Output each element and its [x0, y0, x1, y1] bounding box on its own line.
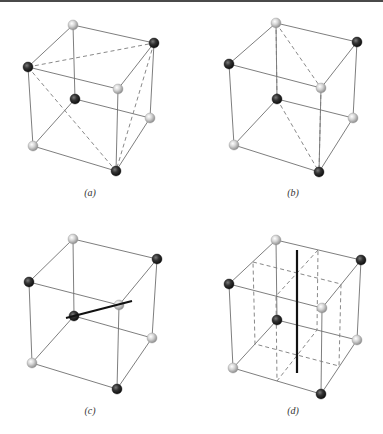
- cube-edge: [73, 25, 154, 43]
- dark-atom-bbl: [272, 94, 282, 104]
- cube-edge: [277, 99, 353, 118]
- cube-edge: [29, 239, 73, 282]
- cube-edge: [276, 240, 277, 320]
- cube-edge: [117, 305, 119, 389]
- light-atom-tfr: [316, 83, 326, 93]
- cube-edge: [119, 259, 157, 305]
- cube-panel-a: (a): [23, 20, 159, 199]
- dark-atom-bfr: [316, 389, 326, 399]
- dark-atom-bfr: [112, 384, 122, 394]
- cube-edge: [321, 308, 322, 394]
- light-atom-tfr: [113, 84, 123, 94]
- cube-panel-b: (b): [224, 18, 362, 199]
- light-atom-tbl: [68, 20, 78, 30]
- cube-edge: [32, 363, 117, 389]
- light-atom-bbr: [147, 333, 157, 343]
- dark-atom-bbl: [272, 315, 282, 325]
- panel-label-d: (d): [287, 405, 299, 417]
- dark-atom-bfr: [111, 166, 121, 176]
- light-atom-tbl: [271, 235, 281, 245]
- cube-edge: [73, 25, 75, 99]
- cube-edge: [229, 64, 321, 88]
- cube-edge: [357, 260, 361, 340]
- dark-atom-tbr: [352, 37, 362, 47]
- cube-edge: [229, 240, 276, 284]
- cube-edge: [32, 316, 74, 363]
- cube-edge: [229, 284, 322, 308]
- cube-edge: [150, 43, 154, 118]
- panel-label-c: (c): [84, 405, 96, 417]
- cube-edge: [116, 118, 150, 171]
- cube-edge: [322, 260, 361, 308]
- cube-panel-d: (d): [224, 235, 366, 417]
- dashed-symmetry-line: [28, 43, 154, 67]
- light-atom-bfl: [27, 358, 37, 368]
- cube-edge: [321, 42, 357, 88]
- cube-edge: [229, 64, 234, 145]
- cube-edge: [117, 338, 152, 389]
- cube-edge: [75, 99, 150, 118]
- dark-atom-tfl: [224, 279, 234, 289]
- light-atom-bfl: [229, 140, 239, 150]
- dark-atom-bfr: [314, 167, 324, 177]
- cube-edge: [229, 284, 233, 368]
- dark-atom-tbr: [149, 38, 159, 48]
- cube-edge: [353, 42, 357, 118]
- light-atom-bbr: [348, 113, 358, 123]
- cube-edge: [28, 25, 73, 67]
- cube-edge: [28, 67, 118, 89]
- cube-edge: [234, 99, 277, 145]
- dark-atom-tbr: [356, 255, 366, 265]
- dark-atom-tbr: [152, 254, 162, 264]
- cube-edge: [73, 239, 74, 316]
- cube-symmetry-figure: (a)(b)(c)(d): [0, 0, 383, 434]
- cube-edge: [33, 146, 116, 171]
- light-atom-bfl: [28, 141, 38, 151]
- dashed-symmetry-line: [28, 67, 116, 171]
- panel-label-a: (a): [84, 187, 96, 199]
- cube-edge: [116, 89, 118, 171]
- dark-atom-bbl: [70, 94, 80, 104]
- cube-edge: [28, 67, 33, 146]
- cube-edge: [33, 99, 75, 146]
- dashed-symmetry-line: [116, 43, 154, 171]
- dark-atom-tfl: [224, 59, 234, 69]
- light-atom-tbl: [68, 234, 78, 244]
- cube-edge: [73, 239, 157, 259]
- cube-edge: [118, 43, 154, 89]
- light-atom-bbr: [145, 113, 155, 123]
- light-atom-tbl: [271, 18, 281, 28]
- cube-panel-c: (c): [24, 234, 162, 417]
- panel-label-b: (b): [287, 187, 299, 199]
- cube-edge: [152, 259, 157, 338]
- rotation-axis-line: [66, 301, 132, 318]
- light-atom-bfl: [228, 363, 238, 373]
- dark-atom-tfl: [24, 277, 34, 287]
- light-atom-bbr: [352, 335, 362, 345]
- cube-edge: [319, 118, 353, 172]
- cube-edge: [74, 316, 152, 338]
- cube-edge: [276, 240, 361, 260]
- light-atom-tfr: [317, 303, 327, 313]
- dark-atom-tfl: [23, 62, 33, 72]
- cube-edge: [29, 282, 32, 363]
- cube-edge: [276, 23, 357, 42]
- cube-edge: [229, 23, 276, 64]
